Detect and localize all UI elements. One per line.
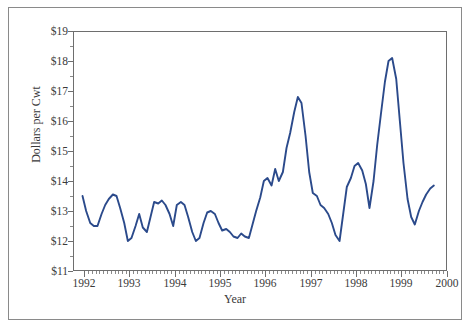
x-minor-tick-mark <box>322 271 323 274</box>
x-minor-tick-mark <box>390 271 391 274</box>
x-minor-tick-mark <box>167 271 168 274</box>
x-minor-tick-mark <box>383 271 384 274</box>
x-minor-tick-mark <box>379 271 380 274</box>
x-minor-tick-mark <box>122 271 123 274</box>
x-minor-tick-mark <box>364 271 365 274</box>
x-minor-tick-mark <box>247 271 248 274</box>
y-tick-label: $13 <box>22 205 68 217</box>
chart-figure: $19 $18 $17 $16 $15 $14 $13 $12 $11 <box>0 0 470 329</box>
x-minor-tick-mark <box>319 271 320 274</box>
x-minor-tick-mark <box>145 271 146 274</box>
x-minor-tick-mark <box>262 271 263 274</box>
x-minor-tick-mark <box>152 271 153 274</box>
y-tick-label: $19 <box>22 25 68 37</box>
x-minor-tick-mark <box>424 271 425 274</box>
x-minor-tick-mark <box>300 271 301 274</box>
x-minor-tick-mark <box>341 271 342 274</box>
x-minor-tick-mark <box>183 271 184 274</box>
x-minor-tick-mark <box>179 271 180 274</box>
x-minor-tick-mark <box>439 271 440 274</box>
x-minor-tick-mark <box>269 271 270 274</box>
x-minor-tick-mark <box>194 271 195 274</box>
x-minor-tick-mark <box>254 271 255 274</box>
data-series-line <box>73 31 447 271</box>
x-minor-tick-mark <box>107 271 108 274</box>
x-minor-tick-mark <box>428 271 429 274</box>
x-minor-tick-mark <box>288 271 289 274</box>
y-axis-title: Dollars per Cwt <box>30 65 43 185</box>
x-minor-tick-mark <box>156 271 157 274</box>
x-minor-tick-mark <box>99 271 100 274</box>
x-minor-tick-mark <box>371 271 372 274</box>
x-minor-tick-mark <box>337 271 338 274</box>
x-minor-tick-mark <box>205 271 206 274</box>
x-minor-tick-mark <box>405 271 406 274</box>
x-minor-tick-mark <box>228 271 229 274</box>
x-minor-tick-mark <box>224 271 225 274</box>
x-minor-tick-mark <box>232 271 233 274</box>
x-minor-tick-mark <box>398 271 399 274</box>
x-minor-tick-mark <box>209 271 210 274</box>
x-minor-tick-mark <box>326 271 327 274</box>
x-minor-tick-mark <box>443 271 444 274</box>
x-minor-tick-mark <box>432 271 433 274</box>
x-minor-tick-mark <box>345 271 346 274</box>
x-minor-tick-mark <box>141 271 142 274</box>
x-minor-tick-mark <box>258 271 259 274</box>
x-minor-tick-mark <box>133 271 134 274</box>
x-minor-tick-mark <box>387 271 388 274</box>
x-minor-tick-mark <box>239 271 240 274</box>
x-minor-tick-mark <box>285 271 286 274</box>
x-minor-tick-mark <box>235 271 236 274</box>
x-minor-tick-mark <box>375 271 376 274</box>
x-minor-tick-mark <box>126 271 127 274</box>
x-minor-tick-mark <box>96 271 97 274</box>
x-minor-tick-mark <box>436 271 437 274</box>
x-minor-tick-mark <box>243 271 244 274</box>
x-minor-tick-mark <box>88 271 89 274</box>
x-minor-tick-mark <box>368 271 369 274</box>
x-minor-tick-mark <box>409 271 410 274</box>
x-minor-tick-mark <box>149 271 150 274</box>
x-minor-tick-mark <box>198 271 199 274</box>
x-minor-tick-mark <box>92 271 93 274</box>
x-minor-tick-mark <box>315 271 316 274</box>
x-axis-title: Year <box>195 293 275 306</box>
x-minor-tick-mark <box>334 271 335 274</box>
x-minor-tick-mark <box>171 271 172 274</box>
x-minor-tick-mark <box>217 271 218 274</box>
x-minor-tick-mark <box>421 271 422 274</box>
y-tick-label: $11 <box>22 265 68 277</box>
x-minor-tick-mark <box>103 271 104 274</box>
x-minor-tick-mark <box>186 271 187 274</box>
x-minor-tick-mark <box>353 271 354 274</box>
x-minor-tick-mark <box>273 271 274 274</box>
x-minor-tick-mark <box>417 271 418 274</box>
x-minor-tick-mark <box>277 271 278 274</box>
y-tick-mark <box>68 271 73 272</box>
x-tick-label: 2000 <box>420 277 470 289</box>
x-minor-tick-mark <box>292 271 293 274</box>
x-minor-tick-mark <box>213 271 214 274</box>
x-minor-tick-mark <box>303 271 304 274</box>
x-minor-tick-mark <box>349 271 350 274</box>
x-minor-tick-mark <box>360 271 361 274</box>
x-minor-tick-mark <box>111 271 112 274</box>
x-minor-tick-mark <box>307 271 308 274</box>
x-minor-tick-mark <box>330 271 331 274</box>
x-minor-tick-mark <box>296 271 297 274</box>
y-tick-label: $12 <box>22 235 68 247</box>
x-minor-tick-mark <box>160 271 161 274</box>
x-minor-tick-mark <box>118 271 119 274</box>
x-minor-tick-mark <box>413 271 414 274</box>
x-minor-tick-mark <box>115 271 116 274</box>
x-minor-tick-mark <box>251 271 252 274</box>
x-minor-tick-mark <box>137 271 138 274</box>
x-minor-tick-mark <box>394 271 395 274</box>
x-minor-tick-mark <box>190 271 191 274</box>
x-minor-tick-mark <box>201 271 202 274</box>
x-minor-tick-mark <box>164 271 165 274</box>
x-minor-tick-mark <box>281 271 282 274</box>
